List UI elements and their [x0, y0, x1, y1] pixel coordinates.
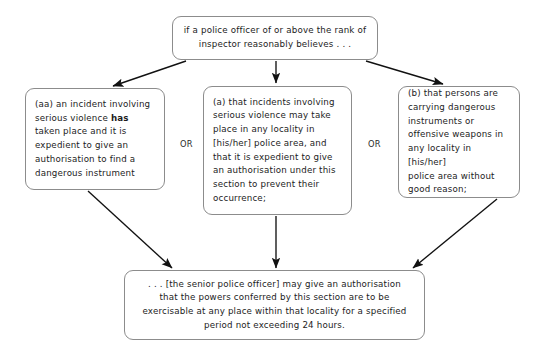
arrow-premise-to-aa	[113, 61, 186, 86]
condition-b-text: (b) that persons are carrying dangerous …	[399, 87, 519, 197]
condition-node-a: (a) that incidents involving serious vio…	[203, 86, 352, 215]
condition-aa-text: (aa) an incident involving serious viole…	[26, 98, 164, 181]
or-label-left: OR	[180, 139, 193, 149]
condition-node-b: (b) that persons are carrying dangerous …	[398, 86, 520, 198]
condition-a-text: (a) that incidents involving serious vio…	[204, 96, 351, 206]
arrow-premise-to-b	[366, 61, 443, 84]
premise-text: if a police officer of or above the rank…	[173, 24, 377, 52]
condition-aa-emphasis: has	[111, 113, 129, 123]
condition-node-aa: (aa) an incident involving serious viole…	[25, 88, 165, 190]
outcome-text: . . . [the senior police officer] may gi…	[125, 278, 424, 333]
arrow-b-to-outcome	[413, 199, 497, 268]
condition-aa-text-lead: (aa) an incident involving serious viole…	[35, 99, 150, 123]
arrow-aa-to-outcome	[88, 191, 172, 268]
premise-node: if a police officer of or above the rank…	[172, 16, 378, 60]
condition-aa-text-tail: taken place and it is expedient to give …	[35, 126, 135, 177]
or-label-right: OR	[368, 139, 381, 149]
outcome-node: . . . [the senior police officer] may gi…	[124, 270, 425, 340]
flowchart-diagram: if a police officer of or above the rank…	[0, 0, 546, 361]
